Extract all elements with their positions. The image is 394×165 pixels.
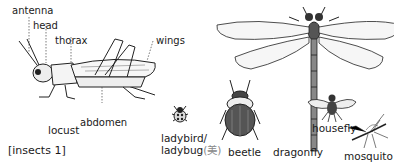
figure-caption: [insects 1] [8,145,66,157]
mosquito-illustration [346,110,392,150]
label-abdomen: abdomen [80,117,127,128]
label-wings: wings [156,35,185,46]
label-antenna: antenna [12,5,53,16]
label-mosquito: mosquito [344,150,393,162]
label-locust: locust [48,124,79,136]
label-head: head [33,20,58,31]
label-dragonfly: dragonfly [273,146,323,158]
ladybird-illustration [170,104,190,124]
label-thorax: thorax [55,35,88,46]
